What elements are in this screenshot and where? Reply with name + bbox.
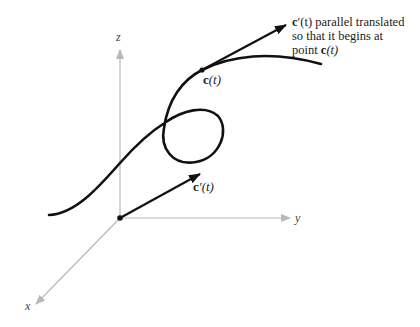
vector-c-prime-label: c′(t) <box>193 179 214 194</box>
z-axis-label: z <box>115 30 121 44</box>
origin-point <box>117 215 123 221</box>
annotation-text: c′(t) parallel translated so that it beg… <box>292 15 405 57</box>
translated-tangent-vector <box>202 25 286 70</box>
diagram-canvas: z y x c(t) c′(t) c′(t) parallel translat… <box>0 0 420 327</box>
tangent-vector-at-origin <box>120 174 200 218</box>
y-axis-label: y <box>294 211 301 225</box>
annotation-line-1: c′(t) parallel translated <box>292 15 405 29</box>
annotation-line-3: point c(t) <box>292 43 338 57</box>
space-curve <box>49 56 321 215</box>
x-axis <box>36 218 120 304</box>
point-c-t-label: c(t) <box>203 72 221 87</box>
x-axis-label: x <box>24 299 31 313</box>
annotation-line-2: so that it begins at <box>292 29 383 43</box>
